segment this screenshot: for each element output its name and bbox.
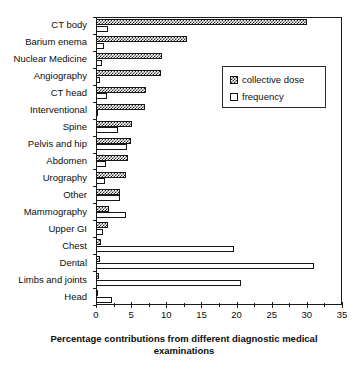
bar-row bbox=[96, 153, 342, 170]
bar-frequency bbox=[96, 263, 314, 269]
bar-collective-dose bbox=[96, 138, 131, 144]
x-axis-tick-label: 10 bbox=[161, 309, 172, 321]
bar-frequency bbox=[96, 229, 103, 235]
bar-collective-dose bbox=[96, 189, 120, 195]
bar-row bbox=[96, 220, 342, 237]
bar-row bbox=[96, 237, 342, 254]
y-axis-label: Nuclear Medicine bbox=[14, 54, 87, 64]
y-axis-tick bbox=[93, 85, 96, 86]
y-axis-tick bbox=[93, 237, 96, 238]
x-axis-tick-labels: 05101520253035 bbox=[96, 309, 342, 323]
chart-figure: CT bodyBarium enemaNuclear MedicineAngio… bbox=[0, 0, 362, 373]
x-axis-minor-tick bbox=[289, 303, 290, 307]
y-axis-label: CT head bbox=[51, 88, 87, 98]
bar-collective-dose bbox=[96, 36, 187, 42]
bar-frequency bbox=[96, 77, 100, 83]
bar-collective-dose bbox=[96, 172, 126, 178]
y-axis-label: Head bbox=[64, 292, 87, 302]
y-axis-tick bbox=[93, 186, 96, 187]
bar-frequency bbox=[96, 280, 241, 286]
legend-label-frequency: frequency bbox=[242, 91, 284, 102]
x-axis-tick-label: 5 bbox=[128, 309, 133, 321]
x-axis-minor-tick bbox=[184, 303, 185, 307]
plot-area: collective dose frequency bbox=[96, 17, 342, 305]
y-axis-tick bbox=[93, 169, 96, 170]
bar-collective-dose bbox=[96, 53, 162, 59]
y-axis-label: Other bbox=[63, 190, 87, 200]
x-axis-tick-label: 35 bbox=[337, 309, 348, 321]
y-axis-label: Mammography bbox=[24, 207, 87, 217]
x-axis-minor-tick bbox=[114, 303, 115, 307]
legend-swatch-frequency bbox=[230, 93, 238, 101]
bar-frequency bbox=[96, 110, 98, 116]
x-axis-tick bbox=[272, 302, 273, 308]
x-axis-minor-tick bbox=[149, 303, 150, 307]
bar-collective-dose bbox=[96, 87, 146, 93]
bar-frequency bbox=[96, 195, 120, 201]
bar-collective-dose bbox=[96, 104, 145, 110]
x-axis-tick-label: 20 bbox=[231, 309, 242, 321]
x-axis-tick-label: 30 bbox=[302, 309, 313, 321]
bar-row bbox=[96, 271, 342, 288]
bar-frequency bbox=[96, 144, 127, 150]
y-axis-tick bbox=[93, 254, 96, 255]
bar-frequency bbox=[96, 60, 102, 66]
bar-frequency bbox=[96, 161, 106, 167]
bar-collective-dose bbox=[96, 206, 109, 212]
top-caption bbox=[6, 0, 306, 6]
x-axis-tick-label: 0 bbox=[93, 309, 98, 321]
y-axis-tick bbox=[93, 220, 96, 221]
bar-row bbox=[96, 186, 342, 203]
y-axis-tick bbox=[93, 34, 96, 35]
bar-collective-dose bbox=[96, 239, 101, 245]
bar-collective-dose bbox=[96, 273, 99, 279]
bar-frequency bbox=[96, 93, 107, 99]
bar-collective-dose bbox=[96, 290, 98, 296]
chart-legend: collective dose frequency bbox=[222, 66, 326, 108]
bar-rows bbox=[96, 17, 342, 305]
legend-item-collective-dose: collective dose bbox=[230, 74, 304, 85]
bar-frequency bbox=[96, 246, 234, 252]
bar-row bbox=[96, 136, 342, 153]
x-axis-title: Percentage contributions from different … bbox=[28, 333, 340, 357]
x-axis-tick-label: 25 bbox=[266, 309, 277, 321]
y-axis-tick bbox=[93, 17, 96, 18]
bar-frequency bbox=[96, 127, 118, 133]
y-axis-label: Upper GI bbox=[48, 224, 87, 234]
y-axis-tick bbox=[93, 271, 96, 272]
bar-collective-dose bbox=[96, 19, 307, 25]
x-axis-tick bbox=[237, 302, 238, 308]
bar-row bbox=[96, 17, 342, 34]
y-axis-tick bbox=[93, 203, 96, 204]
bar-frequency bbox=[96, 178, 105, 184]
y-axis-label: Urography bbox=[43, 173, 87, 183]
bar-frequency bbox=[96, 212, 126, 218]
y-axis-label: Dental bbox=[60, 258, 87, 268]
y-axis-label: Abdomen bbox=[46, 156, 87, 166]
bar-frequency bbox=[96, 297, 112, 303]
bar-collective-dose bbox=[96, 256, 100, 262]
legend-label-collective-dose: collective dose bbox=[242, 74, 304, 85]
x-axis-tick bbox=[96, 302, 97, 308]
bar-row bbox=[96, 169, 342, 186]
x-axis-tick bbox=[131, 302, 132, 308]
y-axis-label: Chest bbox=[62, 241, 87, 251]
bar-frequency bbox=[96, 43, 104, 49]
y-axis-labels: CT bodyBarium enemaNuclear MedicineAngio… bbox=[0, 17, 92, 305]
bar-collective-dose bbox=[96, 222, 108, 228]
y-axis-tick bbox=[93, 119, 96, 120]
x-axis-minor-tick bbox=[324, 303, 325, 307]
x-axis-tick-label: 15 bbox=[196, 309, 207, 321]
bar-row bbox=[96, 203, 342, 220]
legend-item-frequency: frequency bbox=[230, 91, 284, 102]
bar-collective-dose bbox=[96, 121, 132, 127]
x-axis-tick bbox=[307, 302, 308, 308]
bar-row bbox=[96, 119, 342, 136]
y-axis-label: Interventional bbox=[30, 105, 87, 115]
y-axis-tick bbox=[93, 153, 96, 154]
x-axis-minor-tick bbox=[219, 303, 220, 307]
y-axis-label: Angiography bbox=[34, 71, 87, 81]
x-axis-tick bbox=[201, 302, 202, 308]
y-axis-tick bbox=[93, 51, 96, 52]
legend-swatch-collective-dose bbox=[230, 76, 238, 84]
